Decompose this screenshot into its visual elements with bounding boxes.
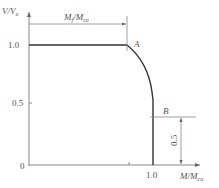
point-a-label: A [133, 39, 140, 49]
interaction-curve [29, 45, 153, 165]
x-tick-label-1: 1.0 [146, 170, 158, 180]
y-tick-label-05: 0.5 [12, 98, 24, 108]
right-dim-label: 0.5 [169, 134, 179, 146]
top-dim-label: Mf/Mcu [63, 12, 89, 23]
x-axis-label: M/Mcu [179, 171, 203, 182]
y-tick-label-0: 0 [20, 161, 25, 171]
y-axis-label: V/Vu [2, 6, 19, 17]
y-tick-label-1: 1.0 [8, 40, 20, 50]
interaction-diagram: V/Vu 1.0 0.5 0 1.0 M/Mcu A Mf/Mcu B 0.5 [0, 0, 219, 188]
point-b-label: B [163, 106, 169, 116]
